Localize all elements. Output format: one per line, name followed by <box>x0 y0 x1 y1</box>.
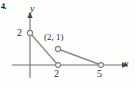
function-segment-2 <box>58 49 101 65</box>
open-point-2-0 <box>56 63 61 68</box>
x-axis-label: x <box>124 59 128 69</box>
x-tick-label-2: 2 <box>54 69 59 79</box>
x-tick-label-5: 5 <box>97 69 102 79</box>
open-point-5-0 <box>99 63 104 68</box>
math-figure: 4. y x 2 2 5 (2, 1) <box>0 0 135 90</box>
y-axis-label: y <box>30 4 34 14</box>
piecewise-function-plot <box>0 0 135 90</box>
point-annotation-2-1: (2, 1) <box>44 33 64 42</box>
open-point-0-2 <box>27 30 32 35</box>
y-tick-label-2: 2 <box>17 28 22 38</box>
open-point-2-1 <box>55 46 60 51</box>
